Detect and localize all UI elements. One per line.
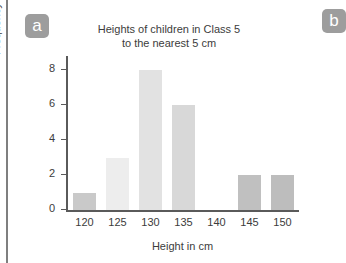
y-tick-label: 2 [49, 167, 55, 179]
x-tick-label: 130 [134, 216, 167, 228]
bar-cell [167, 60, 200, 210]
y-tick-label: 8 [49, 62, 55, 74]
bar-series [68, 60, 299, 210]
chart-title-line-1: Heights of children in Class 5 [54, 22, 284, 36]
bar-cell [101, 60, 134, 210]
y-tick-label: 0 [49, 202, 55, 214]
y-tick-4: 4 [61, 139, 68, 140]
bar-cell [233, 60, 266, 210]
bar-cell [200, 60, 233, 210]
x-tick-label: 140 [200, 216, 233, 228]
page-left-rule [6, 0, 8, 263]
chart-title-line-2: to the nearest 5 cm [54, 36, 284, 50]
bar-135 [172, 105, 194, 210]
y-tick-0: 0 [61, 209, 68, 210]
x-tick-label: 145 [233, 216, 266, 228]
x-tick-label: 150 [266, 216, 299, 228]
x-tick-label: 125 [101, 216, 134, 228]
x-tick-label: 135 [167, 216, 200, 228]
x-axis-label: Height in cm [66, 240, 299, 252]
x-axis-tick-labels: 120125130135140145150 [68, 216, 299, 228]
y-tick-label: 4 [49, 132, 55, 144]
x-tick-label: 120 [68, 216, 101, 228]
bar-130 [139, 70, 161, 210]
y-tick-2: 2 [61, 174, 68, 175]
bar-cell [68, 60, 101, 210]
bar-120 [73, 193, 95, 210]
bar-145 [238, 175, 260, 210]
bar-150 [271, 175, 293, 210]
x-axis-line [66, 210, 299, 212]
bar-cell [134, 60, 167, 210]
bar-chart: Heights of children in Class 5 to the ne… [14, 0, 314, 263]
plot-area: 02468 [66, 62, 299, 212]
y-tick-6: 6 [61, 104, 68, 105]
part-label-b: b [322, 9, 346, 33]
y-tick-8: 8 [61, 69, 68, 70]
bar-cell [266, 60, 299, 210]
y-axis-label: Frequency [0, 3, 2, 55]
bar-125 [106, 158, 128, 210]
chart-title: Heights of children in Class 5 to the ne… [54, 22, 284, 50]
y-tick-label: 6 [49, 97, 55, 109]
